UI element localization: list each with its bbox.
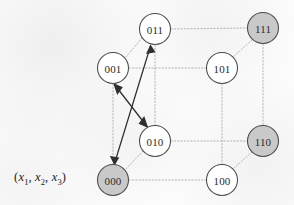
node-100-label: 100: [214, 175, 231, 187]
node-000[interactable]: 000: [98, 165, 129, 196]
tuple-close-paren: ): [62, 170, 66, 184]
hypercube-figure: 011 111 001 101 010 110: [0, 0, 294, 205]
node-010-label: 010: [147, 136, 164, 148]
tuple-comma-1: ,: [28, 170, 31, 184]
edge-010-000: [126, 151, 143, 169]
node-010[interactable]: 010: [140, 126, 171, 157]
node-110[interactable]: 110: [248, 126, 279, 157]
node-001[interactable]: 001: [98, 53, 129, 84]
edge-011-111: [171, 28, 247, 29]
node-011-label: 011: [147, 24, 163, 36]
coordinate-tuple-label: (x1, x2, x3): [14, 170, 66, 187]
node-101[interactable]: 101: [207, 53, 238, 84]
node-111-label: 111: [255, 23, 271, 35]
cube-edges-group: [113, 28, 263, 180]
edge-011-001: [126, 38, 142, 57]
node-111[interactable]: 111: [248, 13, 279, 44]
node-100[interactable]: 100: [207, 165, 238, 196]
tuple-comma-2: ,: [45, 170, 48, 184]
node-011[interactable]: 011: [140, 14, 171, 45]
node-110-label: 110: [255, 136, 272, 148]
arrow-head-into-011: [146, 45, 156, 55]
node-000-label: 000: [105, 175, 122, 187]
edge-111-101: [233, 40, 252, 57]
edge-110-100: [233, 152, 252, 169]
node-001-label: 001: [105, 63, 122, 75]
node-101-label: 101: [214, 63, 231, 75]
